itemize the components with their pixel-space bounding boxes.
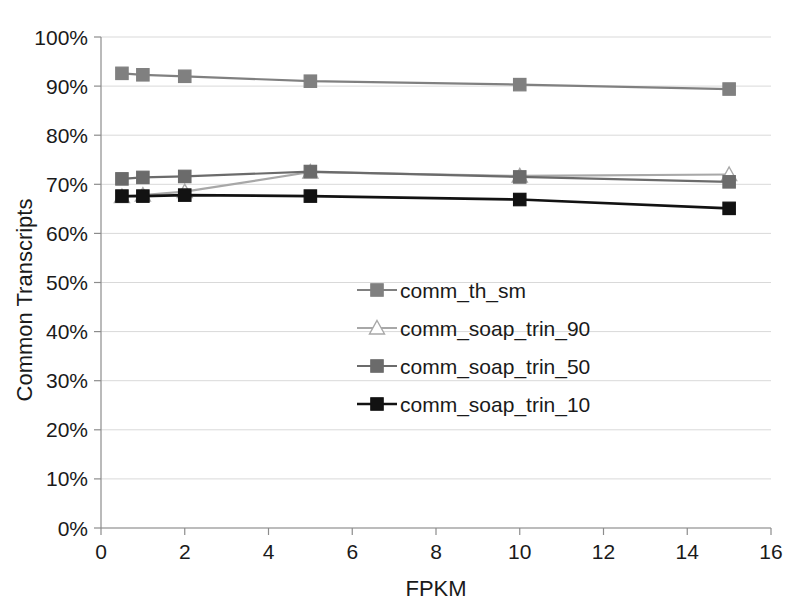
y-axis-title: Common Transcripts bbox=[12, 199, 37, 402]
y-tick-label: 10% bbox=[46, 467, 88, 490]
y-tick-label: 20% bbox=[46, 418, 88, 441]
data-point-comm_th_sm bbox=[179, 70, 191, 82]
data-point-comm_soap_trin_10 bbox=[304, 190, 316, 202]
legend-item-comm_soap_trin_50[interactable]: comm_soap_trin_50 bbox=[357, 355, 590, 379]
data-point-comm_soap_trin_50 bbox=[514, 171, 526, 183]
y-tick-label: 0% bbox=[58, 517, 88, 540]
x-axis-title: FPKM bbox=[405, 576, 466, 601]
data-point-comm_soap_trin_50 bbox=[179, 170, 191, 182]
data-point-comm_soap_trin_50 bbox=[137, 171, 149, 183]
y-axis-tick-labels: 0%10%20%30%40%50%60%70%80%90%100% bbox=[34, 26, 88, 540]
legend-marker-comm_th_sm bbox=[371, 284, 383, 296]
legend-label-comm_th_sm: comm_th_sm bbox=[400, 279, 526, 303]
legend-label-comm_soap_trin_50: comm_soap_trin_50 bbox=[400, 355, 590, 379]
chart-canvas: 0%10%20%30%40%50%60%70%80%90%100% 024681… bbox=[0, 0, 796, 606]
data-point-comm_soap_trin_10 bbox=[116, 190, 128, 202]
data-point-comm_soap_trin_50 bbox=[116, 173, 128, 185]
y-tick-label: 30% bbox=[46, 369, 88, 392]
x-tick-label: 0 bbox=[95, 540, 107, 563]
data-point-comm_th_sm bbox=[723, 83, 735, 95]
series-line-comm_soap_trin_10 bbox=[122, 195, 729, 208]
data-point-comm_th_sm bbox=[137, 69, 149, 81]
legend-label-comm_soap_trin_90: comm_soap_trin_90 bbox=[400, 317, 590, 341]
legend-item-comm_soap_trin_10[interactable]: comm_soap_trin_10 bbox=[357, 393, 590, 417]
x-tick-label: 2 bbox=[179, 540, 191, 563]
legend-label-comm_soap_trin_10: comm_soap_trin_10 bbox=[400, 393, 590, 417]
x-tick-label: 10 bbox=[508, 540, 531, 563]
x-tick-label: 8 bbox=[430, 540, 442, 563]
data-point-comm_th_sm bbox=[116, 67, 128, 79]
data-point-comm_soap_trin_10 bbox=[137, 190, 149, 202]
data-point-comm_soap_trin_10 bbox=[723, 202, 735, 214]
y-tick-label: 50% bbox=[46, 271, 88, 294]
data-point-comm_soap_trin_50 bbox=[723, 176, 735, 188]
series-comm_soap_trin_10 bbox=[116, 189, 736, 215]
data-point-comm_th_sm bbox=[304, 75, 316, 87]
y-tick-label: 90% bbox=[46, 75, 88, 98]
x-tick-label: 14 bbox=[676, 540, 700, 563]
y-tick-label: 80% bbox=[46, 124, 88, 147]
y-tick-label: 100% bbox=[34, 26, 88, 49]
x-tick-label: 6 bbox=[346, 540, 358, 563]
legend-marker-comm_soap_trin_50 bbox=[371, 360, 383, 372]
data-point-comm_th_sm bbox=[514, 78, 526, 90]
x-axis-tick-labels: 0246810121416 bbox=[95, 540, 783, 563]
data-point-comm_soap_trin_10 bbox=[514, 193, 526, 205]
x-tick-label: 12 bbox=[592, 540, 615, 563]
data-point-comm_soap_trin_10 bbox=[179, 189, 191, 201]
x-tick-label: 4 bbox=[263, 540, 275, 563]
x-tick-label: 16 bbox=[759, 540, 782, 563]
series-line-comm_soap_trin_50 bbox=[122, 172, 729, 182]
series-comm_th_sm bbox=[116, 67, 736, 95]
legend-marker-comm_soap_trin_10 bbox=[371, 398, 383, 410]
chart-legend: comm_th_smcomm_soap_trin_90comm_soap_tri… bbox=[357, 279, 590, 417]
series-line-comm_th_sm bbox=[122, 73, 729, 89]
data-series bbox=[114, 67, 736, 214]
y-tick-label: 70% bbox=[46, 173, 88, 196]
y-tick-label: 60% bbox=[46, 222, 88, 245]
y-tick-label: 40% bbox=[46, 320, 88, 343]
legend-item-comm_soap_trin_90[interactable]: comm_soap_trin_90 bbox=[357, 317, 590, 341]
line-chart: 0%10%20%30%40%50%60%70%80%90%100% 024681… bbox=[0, 0, 796, 606]
data-point-comm_soap_trin_50 bbox=[304, 165, 316, 177]
